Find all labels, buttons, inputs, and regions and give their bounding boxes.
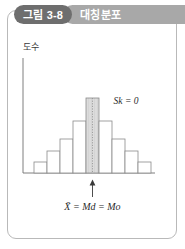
bar <box>60 139 73 173</box>
bar <box>34 162 47 173</box>
figure-number-badge: 그림 3-8 <box>14 5 72 24</box>
arrow-up-icon <box>90 180 96 198</box>
bar <box>138 162 151 173</box>
bar <box>112 139 125 173</box>
bar <box>125 151 138 173</box>
symmetric-distribution-chart: 도수 Sk = 0 <box>7 10 177 239</box>
figure-card: 그림 3-8 대칭분포 도수 <box>0 0 185 249</box>
center-formula: X̄ = Md = Mo <box>63 201 120 212</box>
bar <box>73 121 86 173</box>
bar <box>47 151 60 173</box>
figure-header: 그림 3-8 대칭분포 <box>0 3 185 25</box>
skew-annotation: Sk = 0 <box>114 96 139 106</box>
figure-title-badge: 대칭분포 <box>63 5 185 24</box>
bar <box>99 121 112 173</box>
chart-area: 도수 Sk = 0 <box>7 10 177 239</box>
y-axis-label: 도수 <box>23 42 39 52</box>
